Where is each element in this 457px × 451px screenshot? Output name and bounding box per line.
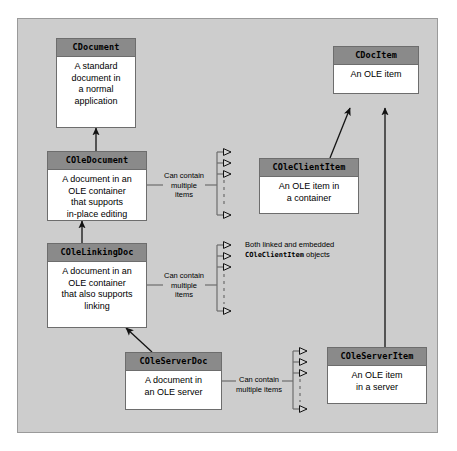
class-description-coledocument: A document in an OLE container that supp… <box>48 170 146 224</box>
diagram-page: CDocument A standard document in a norma… <box>0 0 457 451</box>
class-name-cdocitem: CDocItem <box>334 47 418 65</box>
class-name-coleserverdoc: COleServerDoc <box>126 353 221 371</box>
class-name-coleserveritem: COleServerItem <box>328 348 426 366</box>
class-name-cdocument: CDocument <box>57 39 135 57</box>
class-box-cdocument[interactable]: CDocument A standard document in a norma… <box>56 38 136 128</box>
class-description-cdocument: A standard document in a normal applicat… <box>57 57 135 111</box>
note-line-2-tail: objects <box>304 250 330 259</box>
class-description-coleclientitem: An OLE item in a container <box>260 177 358 208</box>
class-box-coleserveritem[interactable]: COleServerItem An OLE item in a server <box>327 347 427 404</box>
class-box-colelinkingdoc[interactable]: COleLinkingDoc A document in an OLE cont… <box>47 243 147 328</box>
edge-label-coleserverdoc-contains: Can contain multiple items <box>231 375 287 394</box>
class-description-coleserveritem: An OLE item in a server <box>328 366 426 397</box>
edge-label-colelinkingdoc-contains: Can contain multiple items <box>160 271 208 300</box>
class-name-coledocument: COleDocument <box>48 152 146 170</box>
edge-label-coledocument-contains: Can contain multiple items <box>160 171 208 200</box>
class-box-coleserverdoc[interactable]: COleServerDoc A document in an OLE serve… <box>125 352 222 410</box>
note-line-2: COleClientItem objects <box>245 250 334 260</box>
class-description-cdocitem: An OLE item <box>334 65 418 85</box>
class-box-coleclientitem[interactable]: COleClientItem An OLE item in a containe… <box>259 158 359 214</box>
class-box-coledocument[interactable]: COleDocument A document in an OLE contai… <box>47 151 147 221</box>
class-name-colelinkingdoc: COleLinkingDoc <box>48 244 146 262</box>
note-class-name: COleClientItem <box>245 251 304 259</box>
note-linked-and-embedded: Both linked and embedded COleClientItem … <box>245 240 334 260</box>
class-description-colelinkingdoc: A document in an OLE container that also… <box>48 262 146 316</box>
note-line-1: Both linked and embedded <box>245 240 334 250</box>
class-box-cdocitem[interactable]: CDocItem An OLE item <box>333 46 419 94</box>
class-name-coleclientitem: COleClientItem <box>260 159 358 177</box>
class-description-coleserverdoc: A document in an OLE server <box>126 371 221 402</box>
